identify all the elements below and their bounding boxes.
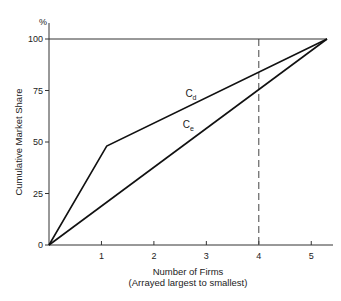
y-axis-title: Cumulative Market Share [13, 88, 24, 195]
x-axis-subtitle: (Arrayed largest to smallest) [129, 277, 248, 288]
y-ticks: 0255075100 [28, 34, 49, 250]
y-tick-label: 100 [28, 34, 43, 44]
y-tick-label: 50 [33, 137, 43, 147]
x-tick-label: 2 [151, 251, 156, 261]
x-axis-title: Number of Firms [153, 266, 224, 277]
series-label-cd: Cd [185, 88, 196, 101]
series-line-ce [49, 39, 327, 245]
x-tick-label: 4 [256, 251, 261, 261]
y-unit-label: % [39, 17, 47, 27]
series: CdCe [49, 39, 327, 245]
y-tick-label: 0 [38, 240, 43, 250]
series-label-ce: Ce [183, 119, 194, 132]
y-tick-label: 75 [33, 86, 43, 96]
x-tick-label: 1 [99, 251, 104, 261]
x-ticks: 12345 [99, 241, 314, 261]
cumulative-market-share-chart: 0255075100 12345 CdCe % Cumulative Marke… [0, 0, 341, 301]
y-tick-label: 25 [33, 189, 43, 199]
x-tick-label: 3 [204, 251, 209, 261]
x-tick-label: 5 [309, 251, 314, 261]
